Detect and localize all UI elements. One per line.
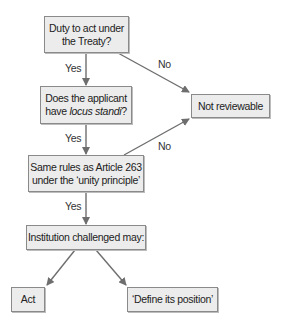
node-text: the Treaty? [49, 35, 124, 48]
edge-label-rules-no: No [158, 140, 171, 152]
node-text: under the ‘unity principle’ [30, 174, 142, 187]
node-text-italic: locus standi [69, 105, 121, 117]
node-text: Duty to act under [49, 22, 124, 35]
node-text: have locus standi? [45, 105, 127, 118]
edge-label-rules-yes: Yes [65, 200, 81, 212]
node-text: Institution challenged may: [28, 231, 144, 244]
node-institution-challenged: Institution challenged may: [26, 225, 146, 250]
node-not-reviewable: Not reviewable [191, 94, 270, 118]
node-text: ? [121, 105, 127, 117]
node-duty-to-act: Duty to act under the Treaty? [44, 16, 129, 53]
node-same-rules: Same rules as Article 263 under the ‘uni… [28, 155, 144, 192]
node-text: ‘Define its position’ [132, 293, 213, 306]
edge-label-duty-yes: Yes [65, 62, 81, 74]
node-text: have [45, 105, 69, 117]
node-act: Act [11, 287, 45, 312]
node-text: Act [21, 293, 35, 306]
edge-label-duty-no: No [158, 58, 171, 70]
node-define-position: ‘Define its position’ [127, 287, 218, 312]
edge-label-standing-yes: Yes [65, 132, 81, 144]
node-locus-standi: Does the applicant have locus standi? [40, 86, 132, 124]
node-text: Not reviewable [198, 100, 263, 113]
node-text: Does the applicant [45, 92, 127, 105]
node-text: Same rules as Article 263 [30, 161, 142, 174]
